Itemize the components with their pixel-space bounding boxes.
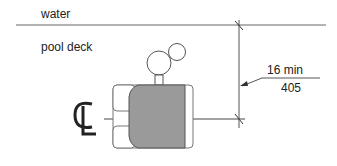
water-label: water <box>41 8 70 20</box>
dimension-metric-label: 405 <box>281 82 301 94</box>
head-circle <box>147 51 171 75</box>
hand-circle <box>169 44 186 61</box>
wheelchair-figure <box>113 44 193 149</box>
pool-deck-label: pool deck <box>41 41 92 53</box>
leader-arrowhead <box>240 81 248 86</box>
seat <box>129 85 185 148</box>
centerline-symbol <box>75 103 96 134</box>
dimension-imperial-label: 16 min <box>267 64 303 76</box>
neck <box>155 75 163 85</box>
